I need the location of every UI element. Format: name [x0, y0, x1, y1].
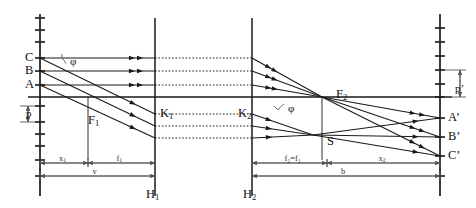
dimension-label-dim-x2: x2 [379, 154, 386, 164]
cardinal-point-label-point-s: S [327, 135, 334, 148]
angle-phi-arc-image [278, 104, 284, 110]
optical-diagram-figure: CBAA’B’C’F1F2K1K2SH1H2φφpp’x1f1vf₂=f₁x2b [0, 0, 476, 208]
ray-arrowhead [129, 69, 135, 73]
ray-arrowhead [265, 74, 271, 78]
plane-label-principal-plane-h1: H1 [146, 188, 159, 202]
image-point-label-A-prime: A’ [448, 111, 460, 124]
refracted-ray-to-S-0 [252, 114, 313, 135]
ray-arrowhead [266, 126, 273, 131]
cardinal-point-label-focal-point-1: F1 [88, 114, 99, 128]
ray-arrowhead [129, 112, 136, 117]
refracted-ray-to-S-2 [252, 135, 313, 138]
ray-arrowhead [266, 135, 272, 140]
ray-arrowhead [137, 69, 143, 73]
ray-arrowhead [129, 100, 136, 105]
angle-phi-arc-object [62, 58, 66, 64]
ray-arrowhead [271, 67, 277, 72]
cardinal-point-label-focal-point-2: F2 [336, 88, 347, 102]
ray-arrowhead [129, 56, 135, 60]
angle-phi-tick-image [274, 106, 278, 110]
ray-arrowhead [265, 64, 271, 69]
ray-arrowhead [265, 85, 271, 89]
cardinal-point-label-node-k2: K2 [238, 107, 251, 121]
ray-arrowhead [412, 149, 418, 153]
ray-arrowhead [409, 110, 415, 114]
image-ray-S-A-prime [313, 118, 440, 135]
ray-arrowhead [413, 134, 419, 138]
ray-arrowhead [137, 56, 143, 60]
image-point-label-C-prime: C’ [448, 149, 461, 162]
ray-arrowhead [137, 83, 143, 87]
ray-arrowhead [409, 125, 415, 129]
dimension-label-dim-f2-f1: f₂=f₁ [285, 154, 301, 163]
ray-arrowhead [412, 119, 418, 123]
dimension-label-dim-b: b [341, 167, 345, 176]
cardinal-point-label-node-k1: K1 [160, 107, 173, 121]
ray-arrowhead [129, 83, 135, 87]
object-point-label-C: C [25, 51, 33, 64]
ray-arrowhead [418, 144, 424, 149]
dimension-label-dim-x1: x1 [59, 154, 66, 164]
dimension-label-dim-f1: f1 [117, 154, 123, 164]
ray-arrowhead [409, 139, 415, 144]
object-point-label-B: B [25, 64, 33, 77]
image-point-label-B-prime: B’ [448, 130, 461, 143]
angle-label-angle-phi-image: φ [288, 103, 294, 114]
ray-arrowhead [271, 76, 277, 80]
ray-arrowhead [129, 124, 136, 129]
refracted-ray-to-F2-B [252, 71, 322, 97]
refracted-ray-to-S-1 [252, 126, 313, 135]
angle-label-angle-phi-object: φ [70, 56, 76, 67]
ray-arrowhead [419, 128, 425, 132]
ray-arrowhead [419, 112, 425, 116]
dimension-label-dim-v: v [93, 167, 97, 176]
ray-arrowhead [265, 117, 272, 121]
plane-label-principal-plane-h2: H2 [243, 188, 256, 202]
height-label-object-height-p: p [26, 108, 32, 119]
object-point-label-A: A [25, 78, 34, 91]
ray-arrowhead [271, 86, 277, 90]
diagram-canvas [0, 0, 476, 208]
incident-ray-oblique-A [40, 85, 155, 138]
height-label-image-height-p-prime: p’ [455, 83, 464, 94]
